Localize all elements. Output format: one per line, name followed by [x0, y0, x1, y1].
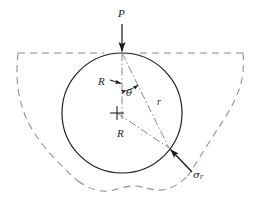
sigma-subscript: r — [200, 173, 203, 181]
label-stress-sigma-r: σr — [193, 170, 203, 181]
sigma-glyph: σ — [193, 169, 200, 180]
label-radius-lower-R: R — [117, 128, 124, 139]
contact-stress-diagram — [0, 0, 261, 215]
boundary-right-edge — [188, 53, 243, 176]
boundary-bottom-edge — [78, 176, 188, 191]
upper-radius-leader-arrow — [110, 80, 121, 84]
figure-container: P R R r θ σr — [0, 0, 261, 215]
label-polar-radius-r: r — [157, 97, 161, 107]
boundary-left-edge — [17, 53, 78, 181]
polar-radius-line — [122, 53, 169, 148]
label-radius-upper-R: R — [98, 76, 105, 87]
label-load-P: P — [118, 8, 125, 19]
lower-radius-line — [117, 113, 169, 148]
stress-arrow-sigma-r — [171, 150, 193, 173]
label-angle-theta: θ — [126, 88, 132, 98]
